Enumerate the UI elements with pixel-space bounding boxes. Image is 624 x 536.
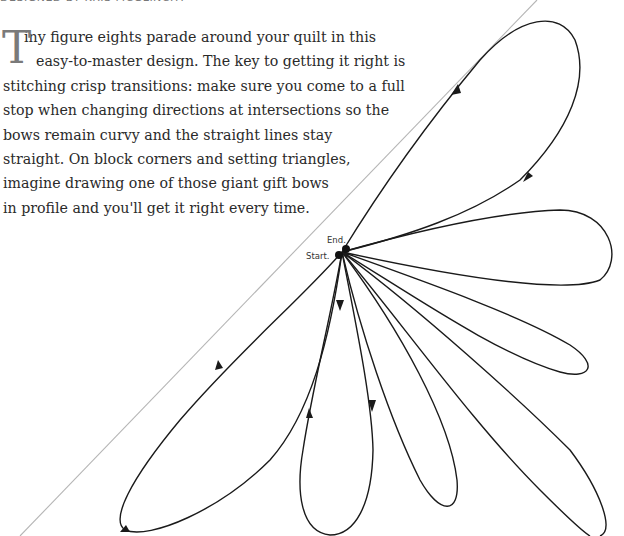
block-edge-guide	[20, 0, 537, 536]
start-label: Start.	[306, 251, 329, 261]
bow-loop-bottom-middle	[342, 252, 457, 506]
start-point	[335, 251, 343, 259]
bow-loop-left	[120, 252, 342, 532]
arrow-icon	[306, 408, 313, 418]
end-label: End.	[327, 235, 346, 245]
arrow-icon	[215, 360, 223, 370]
end-point	[342, 245, 350, 253]
bow-loop-bottom-center	[300, 252, 373, 535]
arrow-icon	[336, 300, 344, 311]
bow-loop-right	[342, 210, 612, 285]
arrow-icon	[523, 172, 533, 182]
quilting-bow-diagram	[0, 0, 624, 536]
bow-loop-lower-right	[342, 252, 588, 374]
direction-arrows	[120, 84, 533, 532]
bow-loop-bottom-right	[342, 252, 606, 536]
bow-loop-top	[342, 21, 580, 252]
